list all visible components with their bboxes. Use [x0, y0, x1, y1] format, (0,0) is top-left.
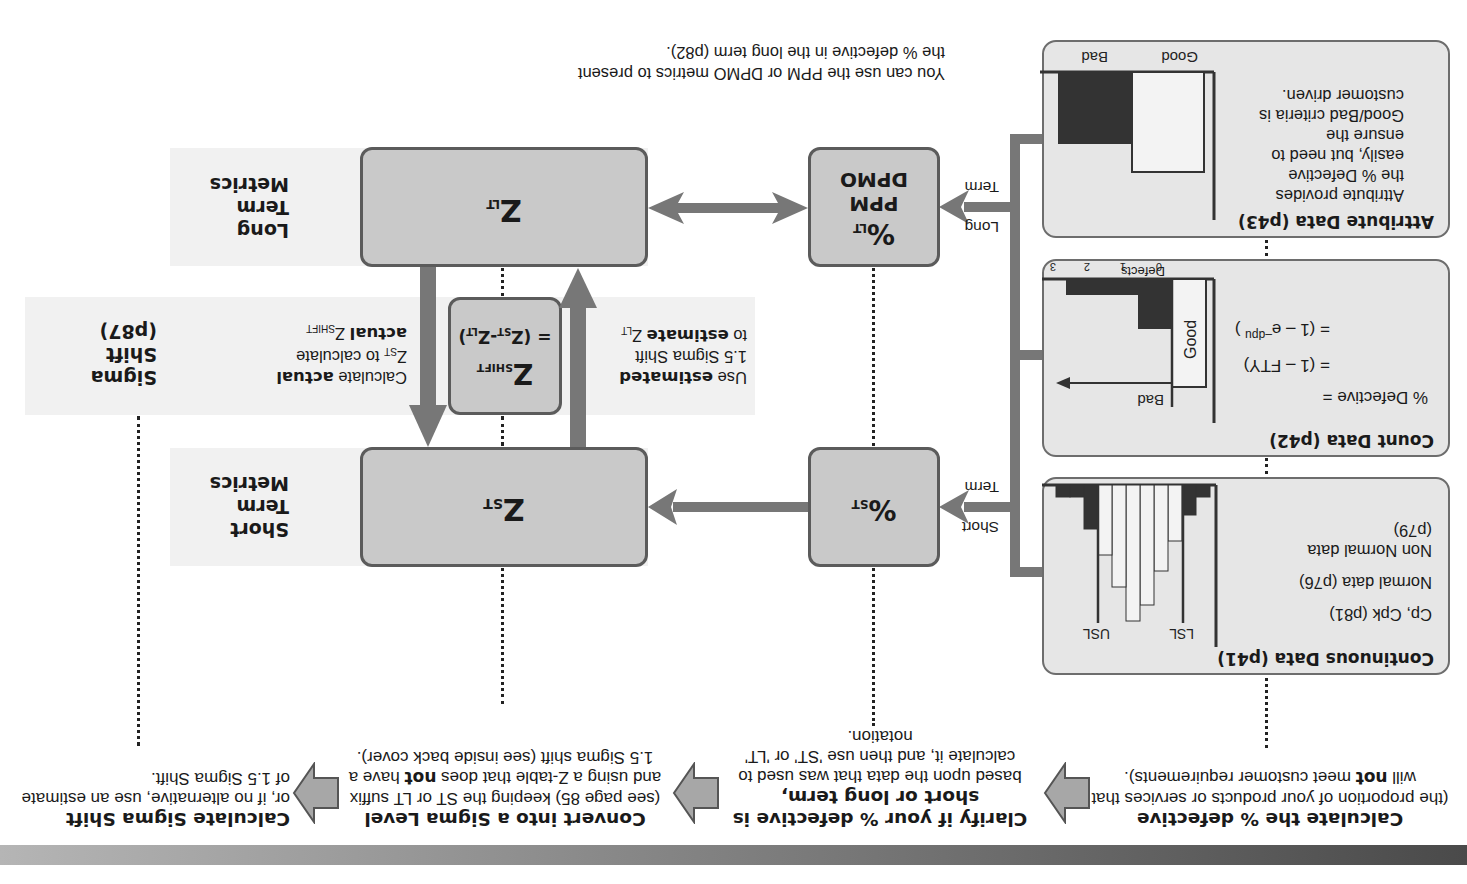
down-arrow-icon: [559, 268, 597, 308]
right-arrow-icon: [672, 762, 720, 824]
connector-bus: [1010, 134, 1020, 577]
step-description: or, if no alternative, use an estimate o…: [15, 768, 290, 808]
arrow-shaft: [420, 267, 436, 406]
count-data-box: Count Data (p42) % Defective = = (1 – FT…: [1042, 259, 1450, 457]
term-label: Term: [965, 478, 999, 496]
dotted-guide: [501, 416, 504, 446]
box-title: Attribute Data (p43): [1238, 212, 1434, 232]
dotted-guide: [1265, 678, 1268, 748]
bad-label: Bad: [1081, 49, 1108, 66]
pct-short-term-node: %ST: [808, 447, 940, 567]
step-calculate-sigma-shift: Calculate Sigma Shift or, if no alternat…: [15, 768, 290, 830]
sigma-shift-label: Sigma Shift (p87): [91, 320, 157, 389]
attribute-data-box: Attribute Data (p43) Attribute provides …: [1042, 40, 1450, 238]
good-label: Good: [1182, 320, 1199, 359]
good-label: Good: [1161, 49, 1198, 66]
usl-label: USL: [1083, 626, 1110, 642]
z-shift-node: ZSHIFT = (ZST-ZLT): [448, 297, 562, 415]
dotted-guide: [872, 568, 875, 726]
actual-shift-note: Calculate actual ZST to calculate actual…: [247, 321, 407, 388]
count-defects-chart: Good Bad 0 1 2 3: [1040, 257, 1220, 427]
attribute-good-bad-chart: Good Bad: [1040, 40, 1218, 220]
header-gradient-bar: [0, 845, 1467, 865]
step-description: (see page 85) keeping the ST or LT suffi…: [340, 747, 670, 808]
long-term-branch: [964, 202, 1010, 212]
dotted-guide: [501, 568, 504, 704]
z-short-term-node: ZST: [360, 447, 648, 567]
up-arrow-icon: [409, 405, 447, 447]
step-description: based upon the data that was used to cal…: [720, 726, 1040, 786]
pct-long-term-node: %LT PPM DPMO: [808, 147, 940, 267]
short-term-branch: [964, 502, 1010, 512]
estimated-shift-note: Use estimated 1.5 Sigma Shift to estimat…: [587, 323, 747, 388]
term-label: Term: [965, 178, 999, 196]
step-title: Clarify if your % defective is short or …: [720, 786, 1040, 830]
step-title: Calculate the % defective: [1090, 808, 1450, 830]
dotted-guide: [1265, 240, 1268, 256]
box-text: Attribute provides the % Defective easil…: [1259, 86, 1404, 206]
dotted-guide: [872, 268, 875, 446]
long-term-metrics-label: Long Term Metrics: [210, 173, 289, 242]
step-convert-sigma-level: Convert into a Sigma Level (see page 85)…: [340, 747, 670, 830]
short-term-metrics-label: Short Term Metrics: [210, 472, 289, 541]
z-long-term-node: ZLT: [360, 147, 648, 267]
step-title: Calculate Sigma Shift: [15, 808, 290, 830]
continuous-histogram-chart: LSL USL: [1040, 473, 1220, 653]
box-text: Cp, Cpk (p81) Normal data (p76) Non Norm…: [1299, 521, 1432, 625]
lsl-label: LSL: [1169, 626, 1194, 642]
arrow-shaft: [570, 305, 586, 447]
short-label: Short: [962, 518, 999, 536]
step-title: Convert into a Sigma Level: [340, 808, 670, 830]
svg-text:3: 3: [1050, 261, 1056, 273]
right-arrow-icon: [648, 489, 677, 525]
box-title: Continuous Data (p41): [1217, 649, 1434, 669]
continuous-data-box: Continuous Data (p41) Cp, Cpk (p81) Norm…: [1042, 477, 1450, 675]
dotted-guide: [137, 416, 140, 746]
dotted-guide: [501, 268, 504, 296]
defective-formula: % Defective = = (1 – FTY) = (1 – e–dpu ): [1235, 317, 1428, 409]
sigma-level-flow-diagram: Calculate the % defective (the proportio…: [0, 0, 1467, 884]
double-arrow-icon: [648, 190, 808, 226]
box-title: Count Data (p42): [1269, 431, 1434, 451]
bad-label: Bad: [1137, 392, 1164, 409]
arrow-shaft: [673, 502, 808, 512]
defects-axis-label: Defects: [1121, 264, 1165, 279]
step-clarify-term: Clarify if your % defective is short or …: [720, 726, 1040, 830]
step-calculate-defective: Calculate the % defective (the proportio…: [1090, 767, 1450, 830]
step-description: (the proportion of your products or serv…: [1090, 767, 1450, 808]
ppm-dpmo-footnote: You can use the PPM or DPMO metrics to p…: [578, 42, 945, 84]
right-arrow-icon: [1043, 762, 1091, 824]
dotted-guide: [1265, 458, 1268, 474]
long-label: Long: [965, 218, 999, 236]
right-arrow-icon: [292, 762, 340, 824]
svg-text:2: 2: [1084, 261, 1090, 273]
